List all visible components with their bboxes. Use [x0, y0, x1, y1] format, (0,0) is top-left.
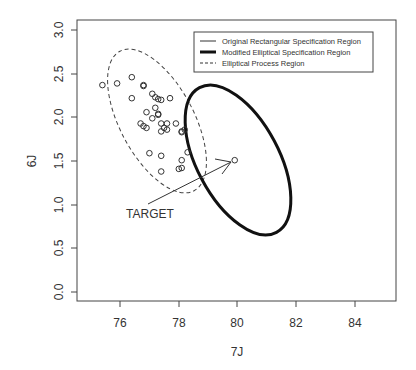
y-axis	[71, 30, 77, 292]
data-point	[150, 91, 156, 97]
x-tick-label: 78	[172, 316, 186, 330]
data-point	[144, 109, 150, 115]
data-point	[129, 95, 135, 101]
x-axis-label: 7J	[231, 345, 244, 359]
y-tick-label: 1.0	[52, 196, 66, 213]
data-point	[158, 169, 164, 175]
y-tick-label: 3.0	[52, 21, 66, 38]
y-tick-label: 1.5	[52, 152, 66, 169]
x-axis	[120, 301, 355, 307]
legend-label: Modified Elliptical Specification Region	[222, 48, 350, 57]
data-point	[158, 153, 164, 159]
data-point	[114, 81, 120, 87]
data-point	[232, 157, 238, 163]
target-arrow	[148, 159, 231, 204]
data-point	[173, 121, 179, 127]
legend: Original Rectangular Specification Regio…	[194, 32, 373, 72]
target-annotation: TARGET	[126, 207, 174, 221]
y-tick-label: 2.5	[52, 65, 66, 82]
data-point	[147, 150, 153, 156]
data-point	[129, 74, 135, 80]
legend-label: Original Rectangular Specification Regio…	[222, 37, 361, 46]
y-tick-label: 2.0	[52, 108, 66, 125]
x-tick-label: 76	[113, 316, 127, 330]
scatter-chart: 0.0 0.5 1.0 1.5 2.0 2.5 3.0 6J 76 78 80 …	[0, 0, 416, 370]
x-tick-label: 80	[230, 316, 244, 330]
data-point	[179, 157, 185, 163]
y-axis-label: 6J	[25, 155, 39, 168]
data-point	[150, 116, 156, 122]
x-tick-label: 82	[289, 316, 303, 330]
y-tick-label: 0.5	[52, 239, 66, 256]
y-tick-label: 0.0	[52, 283, 66, 300]
legend-label: Elliptical Process Region	[222, 59, 305, 68]
data-point	[100, 82, 106, 88]
data-point	[167, 95, 173, 101]
x-tick-label: 84	[348, 316, 362, 330]
data-point	[153, 105, 159, 111]
